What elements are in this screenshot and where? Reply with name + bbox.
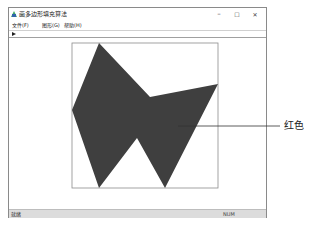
polygon-canvas: [0, 0, 315, 227]
callout-label: 红色: [284, 119, 304, 132]
filled-polygon: [72, 43, 218, 188]
